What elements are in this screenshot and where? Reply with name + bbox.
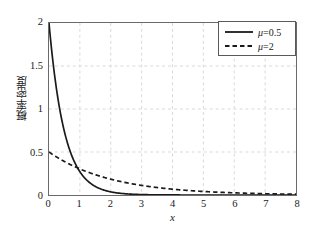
x-tick-label: 0 (45, 199, 50, 210)
figure-canvas: 012345678 00.511.52 x 概率密度 μ=0.5 μ=2 (0, 0, 316, 233)
legend-label-0: μ=0.5 (258, 27, 281, 38)
x-tick-label: 8 (294, 199, 299, 210)
legend-line-solid-icon (224, 27, 254, 37)
y-tick-label: 1 (38, 104, 43, 115)
y-axis-label: 概率密度 (12, 0, 34, 196)
legend-line-dashed-icon (224, 41, 254, 51)
x-tick-label: 2 (108, 199, 113, 210)
x-tick-label: 3 (139, 199, 144, 210)
legend-box: μ=0.5 μ=2 (218, 21, 296, 56)
legend-label-1: μ=2 (258, 41, 274, 52)
legend-item-1: μ=2 (224, 39, 290, 53)
y-tick-label: 2 (38, 17, 43, 28)
x-tick-label: 1 (77, 199, 82, 210)
x-tick-label: 4 (170, 199, 175, 210)
x-tick-label: 7 (263, 199, 268, 210)
y-tick-label: 0 (38, 191, 43, 202)
x-tick-label: 5 (201, 199, 206, 210)
legend-item-0: μ=0.5 (224, 25, 290, 39)
x-tick-label: 6 (232, 199, 237, 210)
x-axis-label: x (48, 212, 297, 223)
y-axis-label-text: 概率密度 (15, 75, 31, 121)
